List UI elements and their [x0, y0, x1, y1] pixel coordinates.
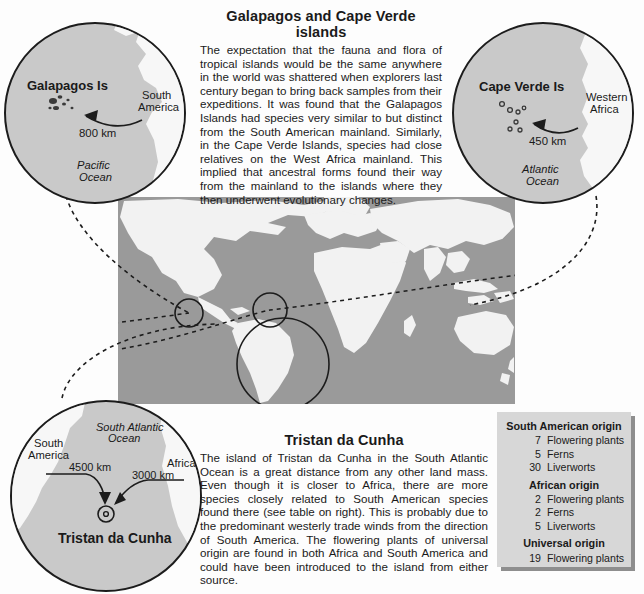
tristan-island-marker: [98, 506, 114, 522]
inset-galapagos: Galapagos Is South America 800 km Pacifi…: [4, 22, 186, 204]
bottom-text-block: Tristan da Cunha The island of Tristan d…: [200, 432, 488, 587]
tristan-distance-west: 4500 km: [69, 462, 111, 474]
tristan-ocean-label-line2: Ocean: [108, 433, 140, 445]
capeverde-island-dots: [500, 102, 526, 132]
species-row: 5 Ferns: [497, 448, 631, 461]
species-group-south-american: South American origin 7 Flowering plants…: [497, 420, 631, 475]
species-group-heading: South American origin: [497, 420, 631, 433]
inset-capeverde: Cape Verde Is Western Africa 450 km Atla…: [452, 22, 634, 204]
species-count: 7: [519, 434, 541, 447]
species-name: Liverworts: [547, 520, 595, 533]
capeverde-mainland-label-line2: Africa: [590, 104, 619, 116]
galapagos-island-dots: [48, 95, 73, 110]
capeverde-island-label: Cape Verde Is: [479, 80, 564, 94]
species-name: Ferns: [547, 448, 574, 461]
species-group-universal: Universal origin 19 Flowering plants: [497, 537, 631, 565]
species-count: 5: [519, 448, 541, 461]
capeverde-ocean-label-line1: Atlantic: [522, 164, 559, 176]
galapagos-mainland-label-line1: South: [142, 90, 171, 102]
galapagos-ocean-label-line1: Pacific: [77, 160, 110, 172]
world-map: [118, 197, 515, 404]
tristan-west-label-line2: America: [28, 450, 69, 462]
tristan-arrow-east-head: [114, 492, 126, 505]
galapagos-distance-label: 800 km: [79, 128, 116, 140]
species-row: 7 Flowering plants: [497, 434, 631, 447]
capeverde-distance-label: 450 km: [529, 136, 566, 148]
species-count: 19: [519, 552, 541, 565]
species-name: Flowering plants: [547, 493, 624, 506]
figure-root: Galapagos Is South America 800 km Pacifi…: [0, 0, 644, 594]
tristan-arrow-west-line: [46, 474, 105, 502]
world-map-landmasses: [118, 197, 515, 404]
species-count: 30: [519, 461, 541, 474]
species-row: 19 Flowering plants: [497, 552, 631, 565]
galapagos-mainland-label-line2: America: [138, 102, 179, 114]
tristan-island-label: Tristan da Cunha: [58, 531, 172, 546]
species-row: 5 Liverworts: [497, 520, 631, 533]
species-group-heading: African origin: [497, 479, 631, 492]
galapagos-ocean-label-line2: Ocean: [79, 172, 112, 184]
species-group-heading: Universal origin: [497, 537, 631, 550]
tristan-east-label: Africa: [167, 458, 196, 470]
bottom-heading: Tristan da Cunha: [200, 432, 488, 448]
species-row: 2 Ferns: [497, 506, 631, 519]
species-name: Flowering plants: [547, 434, 624, 447]
species-name: Flowering plants: [547, 552, 624, 565]
species-table: South American origin 7 Flowering plants…: [497, 412, 631, 567]
species-row: 2 Flowering plants: [497, 493, 631, 506]
bottom-body-text: The island of Tristan da Cunha in the So…: [200, 451, 488, 587]
top-text-block: Galapagos and Cape Verde islands The exp…: [200, 8, 442, 206]
inset-tristan: South Atlantic Ocean South America Afric…: [10, 400, 202, 592]
species-count: 2: [519, 493, 541, 506]
capeverde-ocean-label-line2: Ocean: [526, 176, 559, 188]
tristan-west-label-line1: South: [34, 438, 63, 450]
tristan-arrow-west-head: [99, 492, 111, 505]
capeverde-mainland-label-line1: Western: [586, 92, 627, 104]
species-name: Ferns: [547, 506, 574, 519]
species-group-african: African origin 2 Flowering plants 2 Fern…: [497, 479, 631, 534]
species-count: 5: [519, 520, 541, 533]
tristan-distance-east: 3000 km: [132, 470, 174, 482]
top-body-text: The expectation that the fauna and flora…: [200, 43, 442, 206]
species-row: 30 Liverworts: [497, 461, 631, 474]
page-title: Galapagos and Cape Verde islands: [200, 8, 442, 40]
species-name: Liverworts: [547, 461, 595, 474]
species-count: 2: [519, 506, 541, 519]
galapagos-island-label: Galapagos Is: [27, 79, 108, 93]
